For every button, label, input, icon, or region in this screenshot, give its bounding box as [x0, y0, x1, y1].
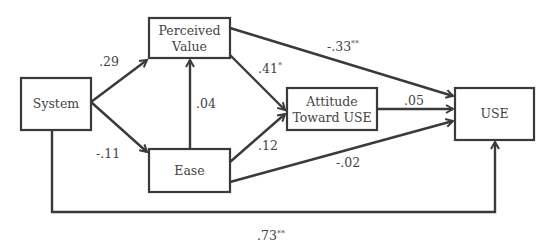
node-perceived-value: Perceived Value — [149, 18, 230, 58]
node-use: USE — [455, 88, 534, 140]
node-system-label: System — [33, 96, 79, 111]
label-ease-to-perceived-value: .04 — [196, 96, 216, 111]
node-perceived-value-line1: Perceived — [158, 23, 220, 38]
node-attitude-line2: Toward USE — [292, 110, 371, 125]
node-attitude: Attitude Toward USE — [287, 88, 377, 130]
label-attitude-to-use: .05 — [404, 93, 424, 108]
label-perceived-value-to-attitude: .41* — [258, 61, 282, 76]
label-ease-to-attitude: .12 — [258, 138, 278, 153]
label-perceived-value-to-use: -.33** — [327, 39, 359, 54]
label-ease-to-use: -.02 — [336, 155, 360, 170]
label-system-to-use: .73** — [257, 228, 285, 243]
node-perceived-value-line2: Value — [171, 39, 207, 54]
edge-system-to-ease — [91, 102, 147, 152]
path-diagram: System Perceived Value Ease Attitude Tow… — [0, 0, 556, 249]
node-system: System — [21, 78, 91, 130]
node-use-label: USE — [480, 106, 508, 121]
label-system-to-ease: -.11 — [96, 146, 120, 161]
node-attitude-line1: Attitude — [305, 94, 357, 109]
node-ease-label: Ease — [174, 163, 204, 178]
label-system-to-perceived-value: .29 — [99, 54, 119, 69]
node-ease: Ease — [149, 149, 230, 192]
